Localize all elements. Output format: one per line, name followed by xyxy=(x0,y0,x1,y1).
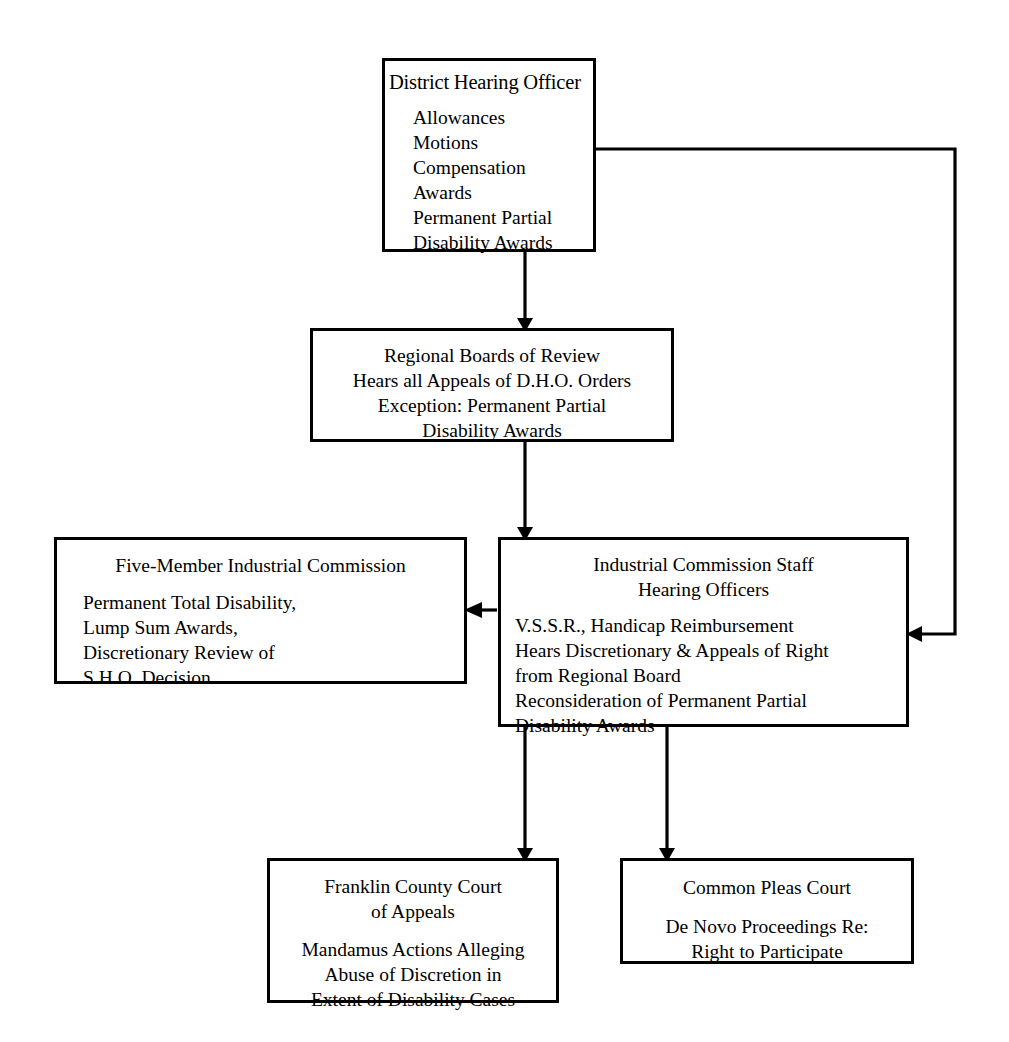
node-header: District Hearing Officer xyxy=(389,70,593,95)
node-header: Common Pleas Court xyxy=(623,875,911,900)
node-header: Five-Member Industrial Commission xyxy=(57,553,464,578)
connector-ics-to-fmic xyxy=(464,602,497,618)
node-district-hearing-officer[interactable]: District Hearing Officer Allowances Moti… xyxy=(382,58,596,252)
node-content: Five-Member Industrial Commission Perman… xyxy=(57,540,464,681)
connector-ics-to-fcca xyxy=(517,727,533,862)
node-body: V.S.S.R., Handicap Reimbursement Hears D… xyxy=(501,602,906,738)
node-content: District Hearing Officer Allowances Moti… xyxy=(385,61,593,249)
node-franklin-county-court-of-appeals[interactable]: Franklin County Court of Appeals Mandamu… xyxy=(267,858,559,1003)
node-content: Franklin County Court of Appeals Mandamu… xyxy=(270,861,556,1000)
node-content: Regional Boards of Review Hears all Appe… xyxy=(313,331,671,439)
connector-ics-to-cpc xyxy=(659,727,675,862)
node-five-member-industrial-commission[interactable]: Five-Member Industrial Commission Perman… xyxy=(54,537,467,684)
node-header: Industrial Commission Staff Hearing Offi… xyxy=(501,552,906,602)
connector-rbr-to-ics xyxy=(517,442,533,541)
node-header: Franklin County Court of Appeals xyxy=(270,874,556,924)
node-body: Permanent Total Disability, Lump Sum Awa… xyxy=(57,578,464,690)
node-regional-boards-of-review[interactable]: Regional Boards of Review Hears all Appe… xyxy=(310,328,674,442)
node-content: Industrial Commission Staff Hearing Offi… xyxy=(501,540,906,724)
node-header: Regional Boards of Review Hears all Appe… xyxy=(313,343,671,443)
node-content: Common Pleas Court De Novo Proceedings R… xyxy=(623,861,911,961)
node-common-pleas-court[interactable]: Common Pleas Court De Novo Proceedings R… xyxy=(620,858,914,964)
connector-dho-to-rbr xyxy=(517,252,533,332)
node-body: Mandamus Actions Alleging Abuse of Discr… xyxy=(270,924,556,1012)
node-body: De Novo Proceedings Re: Right to Partici… xyxy=(623,900,911,964)
flowchart-canvas: District Hearing Officer Allowances Moti… xyxy=(0,0,1009,1042)
node-industrial-commission-staff-hearing-officers[interactable]: Industrial Commission Staff Hearing Offi… xyxy=(498,537,909,727)
node-body: Allowances Motions Compensation Awards P… xyxy=(389,95,593,255)
